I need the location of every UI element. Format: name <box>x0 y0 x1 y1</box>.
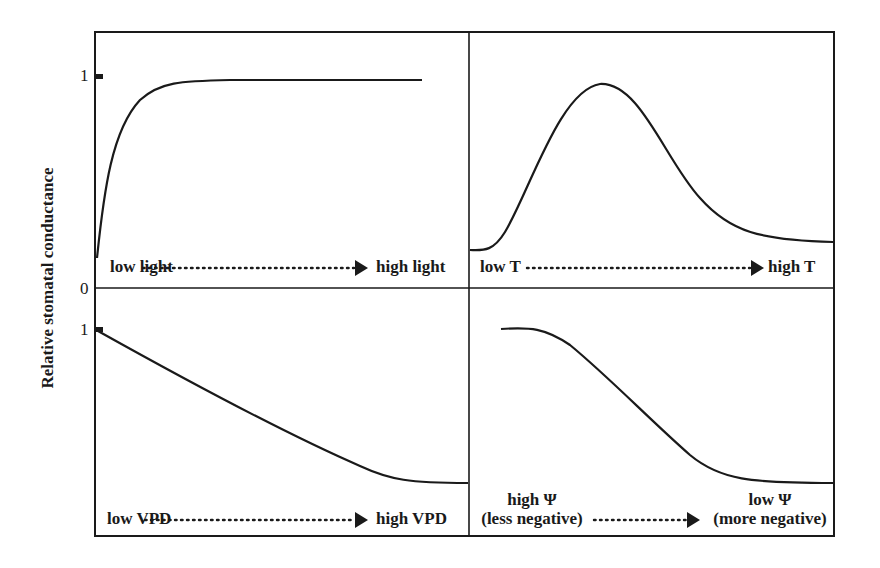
water-potential-low-label: high Ψ (less negative) <box>472 490 592 528</box>
vpd-low-label: low VPD <box>107 509 171 529</box>
light-low-label: low light <box>110 257 173 277</box>
vpd-response-curve <box>98 331 468 483</box>
water-potential-high-label: low Ψ (more negative) <box>706 490 834 528</box>
vpd-arrowhead-icon <box>355 512 368 528</box>
light-high-label: high light <box>376 257 445 277</box>
water-potential-low-psi-text: low Ψ <box>706 490 834 509</box>
chart-frame <box>95 32 834 536</box>
y-tick-label-bottom-one: 1 <box>80 320 89 340</box>
water-potential-high-psi-text: high Ψ <box>472 490 592 509</box>
y-tick-label-zero: 0 <box>80 279 89 299</box>
water-potential-more-negative-text: (more negative) <box>706 509 834 528</box>
stomatal-conductance-figure: Relative stomatal conductance 1 0 1 low … <box>0 0 880 568</box>
temperature-low-label: low T <box>480 257 521 277</box>
light-response-curve <box>97 80 422 258</box>
y-tick-label-top-one: 1 <box>80 66 89 86</box>
water-potential-response-curve <box>501 328 833 483</box>
light-arrowhead-icon <box>355 260 368 276</box>
temperature-high-label: high T <box>768 257 815 277</box>
y-axis-label: Relative stomatal conductance <box>38 168 58 389</box>
temperature-arrowhead-icon <box>751 260 764 276</box>
temperature-response-curve <box>470 84 833 250</box>
vpd-high-label: high VPD <box>376 509 447 529</box>
tick-mark-top-one <box>96 74 103 79</box>
water-potential-arrowhead-icon <box>687 512 700 528</box>
chart-canvas <box>0 0 880 568</box>
water-potential-less-negative-text: (less negative) <box>472 509 592 528</box>
